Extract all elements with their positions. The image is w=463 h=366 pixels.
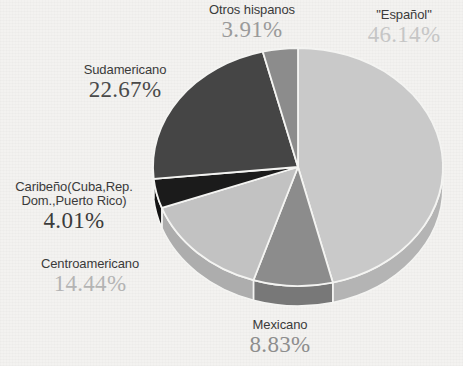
slice-label-percent: 3.91% <box>178 18 326 43</box>
slice-label-percent: 14.44% <box>12 272 168 297</box>
slice-label-centroamericano: Centroamericano 14.44% <box>12 257 168 297</box>
slice-label-otros-hispanos: Otros hispanos 3.91% <box>178 3 326 43</box>
slice-label-percent: 8.83% <box>205 333 355 358</box>
slice-label-espanol: "Español" 46.14% <box>345 8 463 48</box>
slice-label-percent: 22.67% <box>42 78 208 103</box>
slice-label-name: "Español" <box>345 8 463 22</box>
slice-label-mexicano: Mexicano 8.83% <box>205 318 355 358</box>
pie-chart-figure: Otros hispanos 3.91% "Español" 46.14% Su… <box>0 0 463 366</box>
slice-label-name: Sudamericano <box>42 63 208 77</box>
slice-label-name-line2: Dom.,Puerto Rico) <box>0 194 150 208</box>
slice-label-percent: 46.14% <box>345 23 463 48</box>
slice-label-name-line1: Caribeño(Cuba,Rep. <box>0 180 150 194</box>
slice-label-name: Otros hispanos <box>178 3 326 17</box>
slice-label-name: Centroamericano <box>12 257 168 271</box>
slice-label-sudamericano: Sudamericano 22.67% <box>42 63 208 103</box>
slice-label-name: Mexicano <box>205 318 355 332</box>
slice-label-percent: 4.01% <box>0 209 150 234</box>
slice-label-caribeno: Caribeño(Cuba,Rep. Dom.,Puerto Rico) 4.0… <box>0 180 150 234</box>
